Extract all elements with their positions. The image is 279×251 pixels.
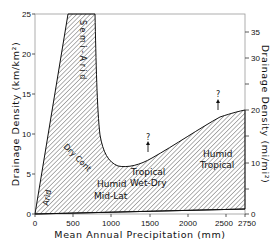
x-tick-2750: 2750: [238, 219, 256, 228]
x-tick-2500: 2500: [215, 219, 233, 228]
x-tick-0: 0: [33, 219, 38, 228]
y-tick-25: 25: [22, 10, 31, 19]
question-mark-1: ?: [146, 133, 150, 142]
up-arrow-icon: [146, 141, 150, 152]
question-mark-2: ?: [216, 90, 220, 99]
y-axis-title-left: Drainage Density (km/km²): [10, 42, 21, 187]
y2-tick-35: 35: [251, 28, 260, 37]
y2-tick-0: 0: [251, 210, 256, 219]
label-humid-midlat-1: Humid: [97, 179, 126, 189]
x-tick-2000: 2000: [179, 219, 197, 228]
y-tick-10: 10: [22, 130, 31, 139]
y2-tick-20: 20: [251, 106, 260, 115]
x-tick-1000: 1000: [102, 219, 120, 228]
x-tick-1500: 1500: [141, 219, 159, 228]
up-arrow-icon: [216, 99, 220, 110]
label-tropical-wetdry-1: Tropical: [130, 167, 165, 177]
y-tick-0: 0: [27, 210, 32, 219]
y-axis-title-right: Drainage Density (mi/mi²): [260, 45, 271, 184]
chart: 25 20 15 10 5 0 35 30 20 10 0 0 500 1000…: [0, 0, 279, 251]
left-axis: [32, 14, 35, 214]
x-tick-500: 500: [66, 219, 80, 228]
label-humid-midlat-2: Mid-Lat: [94, 191, 128, 201]
y2-tick-10: 10: [251, 159, 260, 168]
label-humid-tropical-2: Tropical: [199, 160, 234, 170]
y-tick-20: 20: [22, 50, 31, 59]
y2-tick-30: 30: [251, 54, 260, 63]
y-tick-5: 5: [27, 170, 32, 179]
label-semi-arid: S e m i - A r i d: [78, 20, 87, 79]
right-axis: [245, 32, 249, 214]
y-tick-15: 15: [22, 90, 31, 99]
x-axis-title: Mean Annual Precipitation (mm): [54, 229, 225, 240]
bottom-axis: [35, 214, 245, 217]
label-humid-tropical-1: Humid: [203, 149, 232, 159]
label-tropical-wetdry-2: Wet-Dry: [130, 178, 167, 188]
